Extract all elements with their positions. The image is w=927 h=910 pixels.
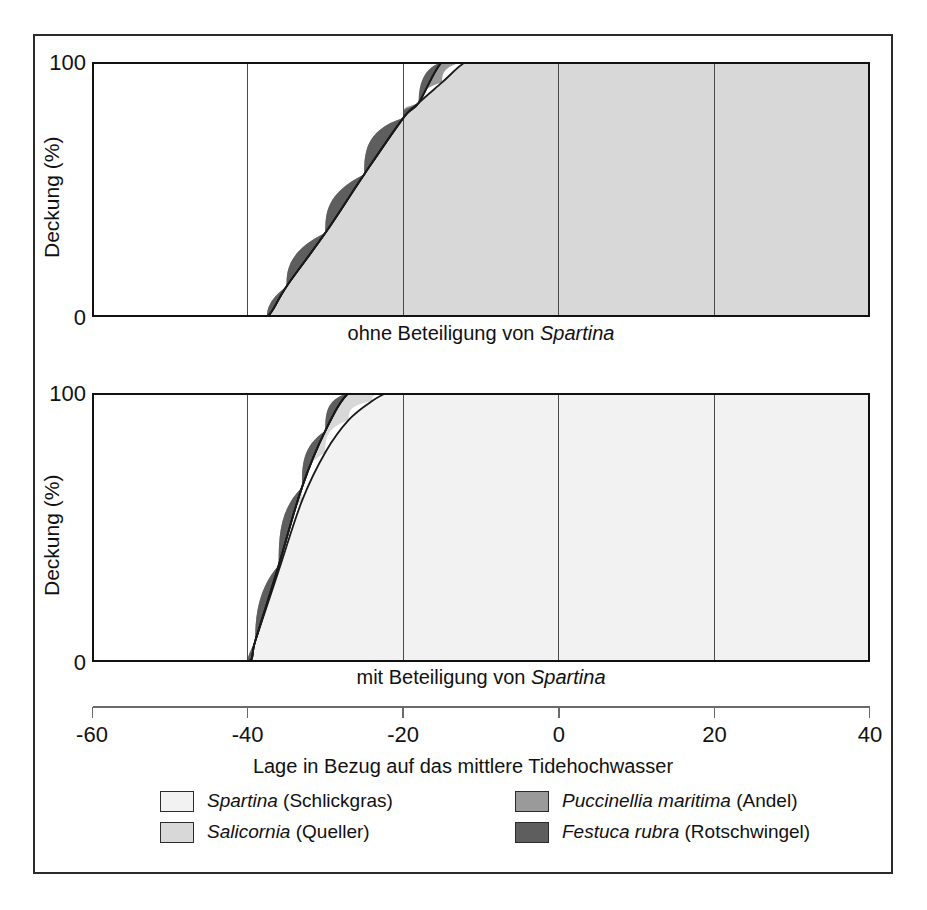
caption-ohne-spartina: ohne Beteiligung von Spartina — [92, 322, 870, 345]
legend-swatch-festuca — [515, 822, 549, 843]
caption-bottom-species: Spartina — [531, 666, 606, 688]
chart-panel-mit-spartina — [92, 393, 870, 662]
y-tick-bottom-100: 100 — [26, 381, 86, 407]
x-tick-label: -40 — [208, 722, 288, 748]
legend-label-spartina: Spartina (Schlickgras) — [207, 790, 393, 812]
figure-root: Deckung (%) 100 0 ohne Beteiligung von S… — [0, 0, 927, 910]
legend-item-spartina: Spartina (Schlickgras) — [160, 790, 515, 812]
y-tick-top-100: 100 — [26, 50, 86, 76]
legend-label-salicornia: Salicornia (Queller) — [207, 821, 370, 843]
x-tick-label: 0 — [519, 722, 599, 748]
legend-item-salicornia: Salicornia (Queller) — [160, 821, 515, 843]
legend-row: Spartina (Schlickgras) Puccinellia marit… — [160, 790, 850, 812]
legend-item-puccinellia: Puccinellia maritima (Andel) — [515, 790, 797, 812]
legend-item-festuca: Festuca rubra (Rotschwingel) — [515, 821, 810, 843]
y-tick-top-0: 0 — [26, 305, 86, 331]
y-axis-label-top: Deckung (%) — [40, 137, 64, 258]
caption-top-species: Spartina — [540, 322, 615, 344]
x-tick-label: -60 — [52, 722, 132, 748]
legend-label-puccinellia: Puccinellia maritima (Andel) — [562, 790, 797, 812]
legend-swatch-salicornia — [160, 822, 194, 843]
y-tick-bottom-0: 0 — [26, 650, 86, 676]
legend: Spartina (Schlickgras) Puccinellia marit… — [160, 790, 850, 852]
area-chart-ohne-spartina — [92, 62, 870, 317]
legend-swatch-puccinellia — [515, 791, 549, 812]
y-axis-label-bottom: Deckung (%) — [40, 475, 64, 596]
legend-swatch-spartina — [160, 791, 194, 812]
legend-row: Salicornia (Queller) Festuca rubra (Rots… — [160, 821, 850, 843]
chart-panel-ohne-spartina — [92, 62, 870, 317]
x-axis-label: Lage in Bezug auf das mittlere Tidehochw… — [33, 755, 893, 778]
caption-bottom-text: mit Beteiligung von — [356, 666, 531, 688]
legend-label-festuca: Festuca rubra (Rotschwingel) — [562, 821, 810, 843]
caption-mit-spartina: mit Beteiligung von Spartina — [92, 666, 870, 689]
caption-top-text: ohne Beteiligung von — [348, 322, 540, 344]
x-axis — [92, 706, 870, 720]
x-tick-label: 20 — [674, 722, 754, 748]
x-tick-label: 40 — [830, 722, 910, 748]
x-tick-label: -20 — [363, 722, 443, 748]
area-chart-mit-spartina — [92, 393, 870, 662]
